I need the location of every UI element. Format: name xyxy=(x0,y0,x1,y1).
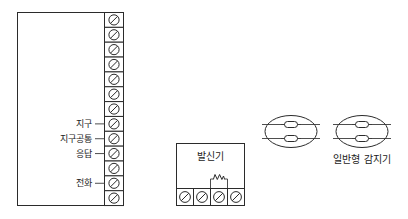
terminal-cell[interactable] xyxy=(105,13,124,28)
terminal-cell[interactable] xyxy=(105,87,124,102)
terminal-cell[interactable] xyxy=(105,161,124,176)
detector-contact-top xyxy=(352,122,372,128)
terminal-cell[interactable] xyxy=(105,57,124,72)
terminal-cell[interactable] xyxy=(194,189,211,206)
terminal-cell[interactable] xyxy=(177,189,194,206)
terminal-cell[interactable] xyxy=(211,189,228,206)
detector-body-ellipse xyxy=(336,116,388,148)
terminal-cell[interactable] xyxy=(105,102,124,117)
transmitter-box: 발신기 xyxy=(177,144,245,206)
detector-contact-bottom xyxy=(352,136,372,142)
transmitter-terminal-list xyxy=(177,189,245,206)
detector-1[interactable] xyxy=(262,116,320,148)
terminal-cell[interactable] xyxy=(105,176,124,191)
terminal-label-jeonhwa: 전화 xyxy=(76,178,92,188)
wiring-diagram-canvas: 지구 지구공통 응답 전화 발신기 xyxy=(0,0,408,219)
terminal-cell[interactable] xyxy=(105,72,124,87)
terminal-cell[interactable] xyxy=(105,146,124,161)
receiver-panel: 지구 지구공통 응답 전화 xyxy=(18,13,124,206)
detector-2[interactable] xyxy=(333,116,391,148)
receiver-terminal-list xyxy=(105,13,124,206)
terminal-cell[interactable] xyxy=(105,116,124,131)
terminal-cell[interactable] xyxy=(105,42,124,57)
receiver-panel-body xyxy=(18,13,105,206)
terminal-label-jigu: 지구 xyxy=(76,119,92,129)
detector-group-label: 일반형 감지기 xyxy=(333,154,390,165)
transmitter-title: 발신기 xyxy=(197,151,224,162)
terminal-label-jigu-gongtong: 지구공통 xyxy=(60,134,92,144)
terminal-label-eungdap: 응답 xyxy=(76,148,92,159)
terminal-cell[interactable] xyxy=(105,27,124,42)
terminal-cell[interactable] xyxy=(105,131,124,146)
detector-contact-bottom xyxy=(281,136,301,142)
terminal-cell[interactable] xyxy=(105,191,124,206)
detector-body-ellipse xyxy=(265,116,317,148)
terminal-cell[interactable] xyxy=(228,189,245,206)
detector-contact-top xyxy=(281,122,301,128)
detector-group: 일반형 감지기 xyxy=(262,116,391,166)
